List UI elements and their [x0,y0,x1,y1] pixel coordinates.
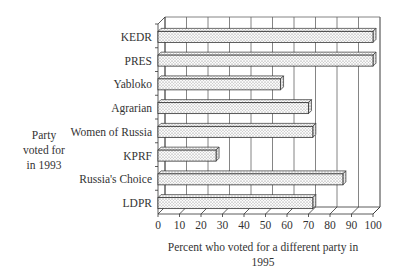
bar [158,123,316,137]
x-tick-label: 90 [346,219,358,231]
category-label: Russia's Choice [79,173,152,185]
bar-chart: KEDRPRESYablokoAgrarianWomen of RussiaKP… [0,0,397,279]
category-label: KPRF [123,150,152,162]
x-tick-label: 10 [174,219,186,231]
category-label: Yabloko [114,78,153,90]
category-label: Agrarian [111,102,152,115]
bar [158,171,346,185]
x-tick-label: 30 [217,219,229,231]
x-axis-title-line-1: Percent who voted for a different party … [168,241,359,254]
category-label: KEDR [121,31,153,43]
x-tick-label: 0 [155,219,161,231]
plot-area [155,17,380,217]
x-tick-label: 70 [303,219,315,231]
category-labels: KEDRPRESYablokoAgrarianWomen of RussiaKP… [71,31,153,209]
x-tick-label: 40 [238,219,250,231]
bar [158,76,284,90]
bar [158,100,312,114]
category-label: LDPR [123,197,153,209]
y-axis-title-line-2: voted for [23,144,65,156]
category-label: PRES [125,55,153,67]
x-tick-label: 50 [260,219,272,231]
x-tick-label: 80 [324,219,336,231]
x-tick-labels: 0102030405060708090100 [155,219,382,231]
x-tick-label: 20 [195,219,207,231]
x-tick-label: 60 [281,219,293,231]
bar [158,147,219,161]
y-axis-title-line-1: Party [32,129,57,142]
bar [158,52,376,66]
bar [158,28,376,42]
bar [158,195,316,209]
y-axis-title-line-3: in 1993 [27,159,62,171]
x-tick-label: 100 [364,219,382,231]
category-label: Women of Russia [71,126,152,138]
x-axis-title-line-2: 1995 [252,256,275,268]
